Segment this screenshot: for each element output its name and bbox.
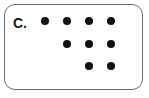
dot-pattern-grid xyxy=(5,5,144,91)
dot-r1-c3 xyxy=(85,17,93,25)
answer-option-card[interactable]: C. xyxy=(4,4,143,90)
dot-r1-c2 xyxy=(63,17,71,25)
dot-r2-c4 xyxy=(107,40,115,48)
dot-r2-c2 xyxy=(63,40,71,48)
dot-r1-c1 xyxy=(41,17,49,25)
dot-r3-c4 xyxy=(107,62,115,70)
dot-r2-c3 xyxy=(85,40,93,48)
dot-r3-c3 xyxy=(85,62,93,70)
dot-r1-c4 xyxy=(107,17,115,25)
